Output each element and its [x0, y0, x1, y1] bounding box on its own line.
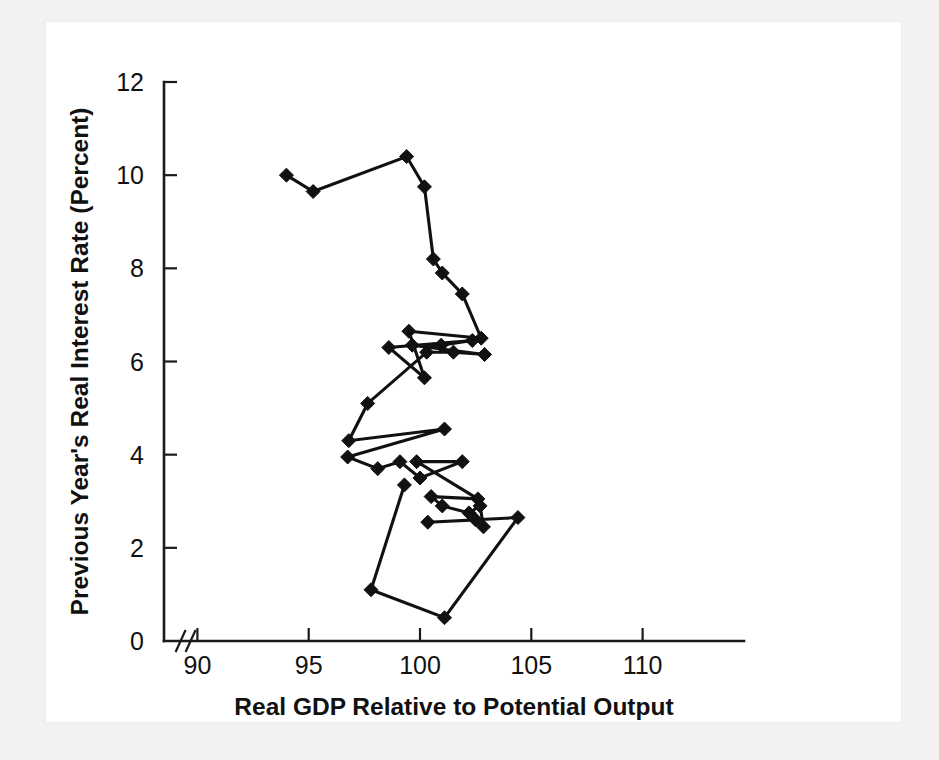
figure-page: 0246810129095100105110Real GDP Relative …	[0, 0, 939, 760]
data-point-marker	[279, 168, 293, 182]
data-point-marker	[364, 583, 378, 597]
x-tick-label: 110	[623, 651, 663, 679]
data-point-marker	[455, 455, 469, 469]
x-tick-label: 100	[399, 651, 441, 679]
y-axis-title: Previous Year's Real Interest Rate (Perc…	[66, 108, 93, 616]
data-point-marker	[397, 478, 411, 492]
axis-labels: 0246810129095100105110Real GDP Relative …	[66, 68, 674, 720]
data-point-marker	[341, 450, 355, 464]
data-point-marker	[446, 345, 460, 359]
axes	[164, 82, 744, 652]
data-point-marker	[421, 515, 435, 529]
y-tick-label: 6	[130, 348, 144, 376]
figure-card: 0246810129095100105110Real GDP Relative …	[46, 22, 901, 722]
data-series	[279, 150, 525, 625]
data-point-marker	[402, 324, 416, 338]
data-point-marker	[437, 422, 451, 436]
y-tick-label: 4	[130, 441, 144, 469]
data-point-marker	[400, 150, 414, 164]
series-line	[286, 157, 518, 618]
data-point-marker	[405, 338, 419, 352]
x-axis-title: Real GDP Relative to Potential Output	[234, 693, 673, 720]
data-point-marker	[306, 184, 320, 198]
data-point-marker	[342, 434, 356, 448]
x-tick-label: 105	[510, 651, 552, 679]
x-tick-label: 95	[295, 651, 323, 679]
data-point-marker	[371, 462, 385, 476]
y-tick-label: 0	[130, 627, 144, 655]
y-tick-label: 12	[116, 68, 144, 96]
scatter-line-chart: 0246810129095100105110Real GDP Relative …	[46, 22, 901, 722]
data-point-marker	[410, 455, 424, 469]
data-point-marker	[417, 180, 431, 194]
y-tick-label: 8	[130, 254, 144, 282]
x-tick-label: 90	[183, 651, 211, 679]
y-tick-label: 10	[116, 161, 144, 189]
data-point-marker	[478, 348, 492, 362]
y-tick-label: 2	[130, 534, 144, 562]
